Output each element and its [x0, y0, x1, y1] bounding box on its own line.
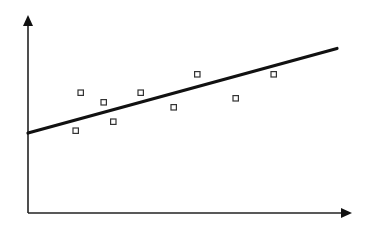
data-point-marker — [111, 119, 116, 124]
data-point-marker — [271, 72, 276, 77]
trend-line — [28, 49, 337, 134]
data-point-marker — [78, 90, 83, 95]
x-axis-arrow-icon — [341, 208, 352, 218]
data-point-marker — [138, 90, 143, 95]
y-axis-arrow-icon — [23, 15, 33, 26]
data-point-marker — [233, 96, 238, 101]
data-point-marker — [73, 128, 78, 133]
data-points — [73, 72, 276, 134]
data-point-marker — [101, 100, 106, 105]
scatter-chart — [0, 0, 372, 229]
data-point-marker — [171, 105, 176, 110]
data-point-marker — [195, 72, 200, 77]
